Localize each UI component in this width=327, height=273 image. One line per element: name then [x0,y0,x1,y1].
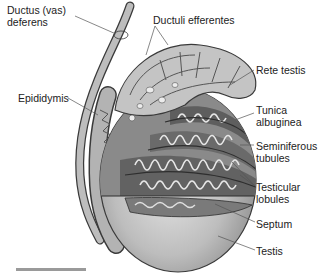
label-ductus-deferens: Ductus (vas) deferens [7,4,66,28]
label-epididymis: Epididymis [18,92,69,104]
testis-illustration [0,0,327,273]
scale-bar [16,268,86,271]
label-testicular-lobules: Testicular lobules [256,181,300,205]
label-testis: Testis [256,245,283,257]
label-ductuli-efferentes: Ductuli efferentes [153,14,235,26]
label-seminiferous-tubules: Seminiferous tubules [256,140,317,164]
label-rete-testis: Rete testis [256,64,306,76]
testis-diagram: Ductus (vas) deferens Ductuli efferentes… [0,0,327,273]
label-tunica-albuginea: Tunica albuginea [256,104,302,128]
label-septum: Septum [256,218,292,230]
